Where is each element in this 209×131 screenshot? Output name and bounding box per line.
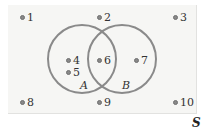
dot-icon [66,58,71,63]
dot-icon [173,100,178,105]
element-label: 6 [104,54,111,67]
universe-label: S [192,116,201,130]
element-label: 8 [27,96,34,109]
set-a-label: A [80,79,88,92]
element-2: 2 [97,11,111,24]
element-8: 8 [20,96,34,109]
element-label: 7 [141,54,148,67]
dot-icon [134,58,139,63]
dot-icon [20,15,25,20]
element-6: 6 [97,54,111,67]
dot-icon [97,100,102,105]
element-label: 10 [180,96,194,109]
element-9: 9 [97,96,111,109]
dot-icon [97,15,102,20]
element-label: 9 [104,96,111,109]
element-label: 5 [73,66,80,79]
dot-icon [97,58,102,63]
element-5: 5 [66,66,80,79]
set-b-label: B [122,79,130,92]
element-label: 3 [180,11,187,24]
element-7: 7 [134,54,148,67]
element-1: 1 [20,11,34,24]
element-10: 10 [173,96,194,109]
dot-icon [66,70,71,75]
element-3: 3 [173,11,187,24]
dot-icon [20,100,25,105]
element-label: 2 [104,11,111,24]
dot-icon [173,15,178,20]
element-label: 1 [27,11,34,24]
